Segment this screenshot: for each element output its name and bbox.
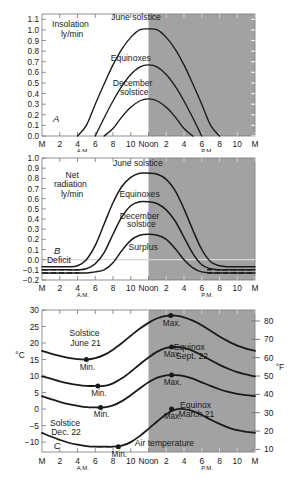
marker-dot-min [116,444,121,449]
ytick-label: 0.3 [28,225,40,234]
xtick-label: 8 [217,456,222,466]
marker-dot-min [98,405,103,410]
xtick-label: 2 [164,139,169,149]
panel-a-plot: 0.00.10.20.30.40.50.60.70.80.91.01.1Inso… [0,0,297,152]
ytick-label: 0.2 [28,111,40,120]
xtick-label: 4 [182,283,187,293]
fahrenheit-axis-label: °F [276,362,284,372]
annotation-equinoxes: Equinoxes [120,189,160,199]
ytick-label: 0.9 [28,37,40,46]
xtick-label: 6 [93,283,98,293]
ytick-label-celsius: 25 [30,322,40,332]
xtick-label: 10 [126,139,136,149]
ytick-label-celsius: −5 [29,421,39,431]
xtick-label: 10 [126,456,136,466]
annotation-insolation: Insolation [52,19,89,29]
xtick-label: M [252,139,259,149]
ytick-label-celsius: 0 [34,404,39,414]
annotation-sept-22: Sept. 22 [176,351,208,361]
ytick-label-celsius: −10 [25,437,40,447]
xtick-label: Noon [138,456,158,466]
xtick-label: 10 [126,283,136,293]
ytick-label-fahrenheit: 20 [264,426,274,436]
ytick-label-celsius: 10 [30,371,40,381]
xtick-label: 8 [111,456,116,466]
xtick-label: 10 [233,139,243,149]
ytick-label: 0.9 [28,164,40,173]
ytick-label: 0.8 [28,47,40,56]
xtick-label: M [39,283,46,293]
ytick-label: 0.6 [28,195,40,204]
ytick-label-fahrenheit: 60 [264,353,274,363]
ytick-label-fahrenheit: 70 [264,334,274,344]
xtick-label: M [39,139,46,149]
ytick-label: 0.7 [28,185,40,194]
xtick-label: 8 [111,283,116,293]
marker-label-max: Max. [164,378,182,387]
annotation-deficit: Deficit [47,255,71,265]
annotation-ly-min: ly/min [61,189,84,199]
ytick-label: 0.6 [28,68,40,77]
ytick-label: −0.1 [23,266,40,275]
pm-shaded-region [149,14,256,136]
xtick-label: 4 [182,139,187,149]
ytick-label-fahrenheit: 80 [264,316,274,326]
panel-b-net-radiation: −0.2−0.10.00.10.20.30.40.50.60.70.80.91.… [0,152,297,302]
annotation-c: C [54,440,61,451]
xtick-label: 2 [57,283,62,293]
annotation-a: A [52,113,59,124]
annotation-june-21: June 21 [70,338,101,348]
xtick-label: 2 [164,283,169,293]
ytick-label: 0.1 [28,246,40,255]
xtick-label: 2 [164,456,169,466]
xtick-label: Noon [138,139,158,149]
marker-dot-min [84,357,89,362]
ytick-label: 0.4 [28,90,40,99]
xtick-label: 6 [93,456,98,466]
xtick-label: M [252,283,259,293]
ytick-label: 0.8 [28,174,40,183]
annotation-march-21: March 21 [179,409,215,419]
annotation-solstice: solstice [127,219,156,229]
ytick-label-celsius: 20 [30,338,40,348]
ytick-label: 1.0 [28,154,40,163]
xtick-label: 8 [111,139,116,149]
annotation-june-solstice: June solstice [111,12,161,22]
panel-b-plot: −0.2−0.10.00.10.20.30.40.50.60.70.80.91.… [0,152,297,302]
ytick-label: 0.3 [28,100,40,109]
ytick-label-celsius: 5 [34,388,39,398]
ytick-label: 0.5 [28,79,40,88]
marker-dot-min [95,383,100,388]
ytick-label: 0.2 [28,235,40,244]
xtick-label: 10 [233,283,243,293]
xtick-label: M [39,456,46,466]
xtick-label: Noon [138,283,158,293]
annotation-dec-22: Dec. 22 [51,427,81,437]
marker-dot-max [168,313,173,318]
annotation-solstice: solstice [120,87,149,97]
marker-label-min: Min. [91,389,106,398]
am-label: A.M. [77,465,90,471]
ytick-label-fahrenheit: 10 [264,444,274,454]
ytick-label-fahrenheit: 30 [264,408,274,418]
xtick-label: 2 [57,139,62,149]
annotation-surplus: Surplus [129,242,158,252]
pm-label: P.M. [201,465,213,471]
marker-label-max: Max. [163,319,181,328]
ytick-label: 1.1 [28,15,40,24]
xtick-label: 6 [93,139,98,149]
ytick-label-celsius: 30 [30,305,40,315]
annotation-equinoxes: Equinoxes [111,53,151,63]
annotation-june-solstice: June solstice [113,158,163,168]
pm-label: P.M. [201,292,213,298]
annotation-ly-min: ly/min [61,29,84,39]
ytick-label-fahrenheit: 50 [264,371,274,381]
annotation-b: B [54,245,61,256]
celsius-axis-label: °C [15,350,24,360]
panel-a-insolation: 0.00.10.20.30.40.50.60.70.80.91.01.1Inso… [0,0,297,152]
pm-shaded-region [149,158,256,280]
am-label: A.M. [77,292,90,298]
ytick-label: 1.0 [28,26,40,35]
xtick-label: 8 [217,139,222,149]
annotation-air-temperature: Air temperature [135,438,194,448]
